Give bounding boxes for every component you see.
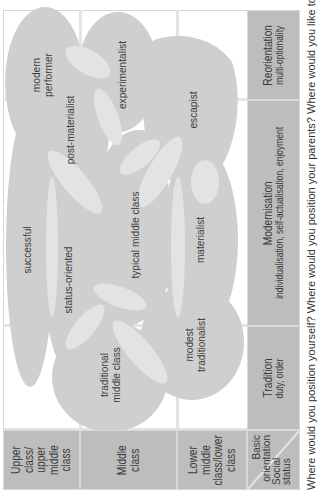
milieu-label-typical-middle-class: typical middle class xyxy=(129,191,141,278)
milieu-label-successful: successful xyxy=(21,226,33,273)
milieu-label-escapist: escapist xyxy=(187,91,199,128)
column-header-tradition: Traditionduty, order xyxy=(247,326,300,430)
row-header-lower-class: Lower middleclass/lowerclass xyxy=(177,430,247,490)
column-header-modernisation: Modernisationindividualisation, self-act… xyxy=(247,100,300,326)
caption: Where would you position yourself? Where… xyxy=(305,0,317,490)
milieu-label-modest-traditionalist: modesttraditionalist xyxy=(183,318,207,372)
milieu-label-traditional-middle-class: traditionalmiddle class xyxy=(98,347,122,403)
row-header-upper-class: Upper class/uppermiddle class xyxy=(3,430,80,490)
milieu-label-materialist: materialist xyxy=(194,217,206,263)
corner-header: Socialstatus Basicorientation xyxy=(247,430,300,490)
row-header-middle-class: Middleclass xyxy=(80,430,177,490)
basic-orientation-label: Basicorientation xyxy=(252,435,272,482)
column-header-reorientation: Reorientationmulti-optionality xyxy=(247,10,300,100)
milieu-label-status-oriented: status-oriented xyxy=(62,247,74,314)
milieu-label-experimentalist: experimentalist xyxy=(116,41,128,109)
social-status-label: Socialstatus xyxy=(272,458,292,485)
milieu-diagram: modernperformer experimentalist escapist… xyxy=(0,0,324,502)
milieu-label-modern-performer: modernperformer xyxy=(30,53,54,97)
milieu-label-post-materialist: post-materialist xyxy=(64,96,76,165)
